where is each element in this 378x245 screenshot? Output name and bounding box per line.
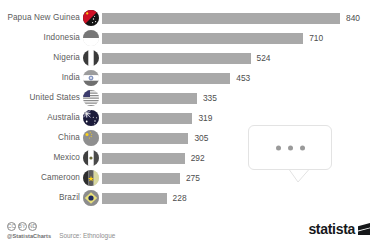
- bar: [102, 133, 188, 144]
- row-label: Brazil: [0, 188, 82, 208]
- bar-wrap: 292: [102, 148, 378, 168]
- bar: [102, 173, 180, 184]
- table-row: India 453: [0, 68, 378, 88]
- social-handle[interactable]: @StatistaCharts: [7, 233, 51, 239]
- dot-icon: [288, 145, 293, 150]
- row-label: Nigeria: [0, 48, 82, 68]
- bar-wrap: 524: [102, 48, 378, 68]
- bar-wrap: 305: [102, 128, 378, 148]
- cc-by-icon: BY: [18, 222, 27, 231]
- bar-wrap: 275: [102, 168, 378, 188]
- row-label: Mexico: [0, 148, 82, 168]
- row-label: United States: [0, 88, 82, 108]
- bar-rows: Papua New Guinea 840 Indonesia 710 Niger…: [0, 8, 378, 208]
- flag-china-icon: [83, 130, 99, 146]
- bubble-dots: [249, 145, 331, 150]
- bar: [102, 53, 251, 64]
- bar: [102, 33, 303, 44]
- row-label: Indonesia: [0, 28, 82, 48]
- bar-value: 292: [191, 153, 205, 164]
- bar-value: 710: [309, 33, 323, 44]
- flag-brazil-icon: [83, 190, 99, 206]
- table-row: Cameroon 275: [0, 168, 378, 188]
- row-label: Australia: [0, 108, 82, 128]
- bar-wrap: 710: [102, 28, 378, 48]
- statista-mark-icon: [358, 223, 370, 235]
- table-row: Nigeria 524: [0, 48, 378, 68]
- bar-value: 275: [186, 173, 200, 184]
- table-row: Indonesia 710: [0, 28, 378, 48]
- bar-wrap: 228: [102, 188, 378, 208]
- flag-indonesia-icon: [83, 30, 99, 46]
- bar-value: 840: [346, 13, 360, 24]
- brand-wordmark: statista: [308, 222, 355, 236]
- source-note: Source: Ethnologue: [59, 232, 115, 239]
- row-label: Papua New Guinea: [0, 8, 82, 28]
- bar: [102, 73, 230, 84]
- bar: [102, 93, 197, 104]
- statista-logo: statista: [308, 222, 370, 236]
- speech-bubble[interactable]: [248, 125, 332, 170]
- flag-nigeria-icon: [83, 50, 99, 66]
- cc-icon: CC: [7, 222, 16, 231]
- cc-nd-icon: ND: [28, 222, 37, 231]
- flag-papua-new-guinea-icon: [83, 10, 99, 26]
- bar: [102, 13, 340, 24]
- bar-wrap: 335: [102, 88, 378, 108]
- dot-icon: [276, 145, 281, 150]
- flag-united-states-icon: [83, 90, 99, 106]
- speech-bubble-tail: [289, 170, 309, 184]
- bar: [102, 193, 167, 204]
- row-label: China: [0, 128, 82, 148]
- flag-cameroon-icon: [83, 170, 99, 186]
- bar-value: 453: [236, 73, 250, 84]
- bar-value: 228: [173, 193, 187, 204]
- flag-mexico-icon: [83, 150, 99, 166]
- table-row: Papua New Guinea 840: [0, 8, 378, 28]
- bar-value: 319: [198, 113, 212, 124]
- bar-value: 305: [194, 133, 208, 144]
- flag-australia-icon: [83, 110, 99, 126]
- dot-icon: [300, 145, 305, 150]
- bar-wrap: 840: [102, 8, 378, 28]
- bar-wrap: 319: [102, 108, 378, 128]
- table-row: Brazil 228: [0, 188, 378, 208]
- bar: [102, 113, 192, 124]
- row-label: India: [0, 68, 82, 88]
- bar-value: 335: [203, 93, 217, 104]
- bar-wrap: 453: [102, 68, 378, 88]
- table-row: United States 335: [0, 88, 378, 108]
- flag-india-icon: [83, 70, 99, 86]
- row-label: Cameroon: [0, 168, 82, 188]
- bar-value: 524: [257, 53, 271, 64]
- bar: [102, 153, 185, 164]
- chart-root: Papua New Guinea 840 Indonesia 710 Niger…: [0, 0, 378, 245]
